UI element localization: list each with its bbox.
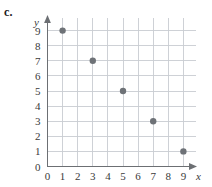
y-tick-label: 8 [35,40,41,52]
y-tick-label: 1 [35,145,41,157]
x-tick-label: 8 [166,170,172,182]
x-axis-tick-labels: 0123456789 [45,170,187,182]
x-tick-label: 4 [105,170,111,182]
figure-panel: c. 0123456789 0123456789 x y [0,0,212,187]
scatter-plot: 0123456789 0123456789 x y [0,0,212,187]
x-axis-arrow [189,163,197,170]
y-tick-label: 7 [35,55,41,67]
x-tick-label: 7 [150,170,156,182]
axis-names: x y [33,16,201,182]
x-tick-label: 2 [75,170,81,182]
x-tick-label: 3 [90,170,96,182]
x-tick-label: 5 [120,170,126,182]
data-point [90,58,96,64]
y-axis-label: y [33,16,39,28]
x-axis-label: x [195,170,201,182]
y-tick-label: 3 [35,115,41,127]
data-point [120,88,126,94]
y-axis-tick-labels: 0123456789 [35,25,41,173]
y-tick-label: 5 [35,85,41,97]
y-tick-label: 4 [35,100,41,112]
x-tick-label: 9 [181,170,187,182]
data-point [150,118,156,124]
y-tick-label: 2 [35,130,41,142]
y-tick-label: 0 [35,161,41,173]
data-point [59,27,65,33]
data-point [180,148,186,154]
y-axis-arrow [44,15,51,23]
y-tick-label: 6 [35,70,41,82]
x-tick-label: 6 [135,170,141,182]
x-tick-label: 0 [45,170,51,182]
x-tick-label: 1 [60,170,66,182]
